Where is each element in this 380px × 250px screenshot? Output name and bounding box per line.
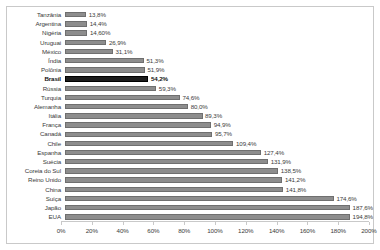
x-tick-label: 100% — [207, 222, 222, 234]
bar-track: 14,60% — [65, 29, 373, 37]
category-label: Rússia — [7, 85, 65, 93]
bar-track: 95,7% — [65, 130, 373, 138]
value-label: 131,9% — [268, 158, 291, 166]
bar-row: Canadá95,7% — [7, 130, 373, 138]
value-label: 59,3% — [156, 85, 176, 93]
bar-row: Rússia59,3% — [7, 85, 373, 93]
category-label: Itália — [7, 112, 65, 120]
bar — [65, 187, 283, 192]
bar — [65, 21, 87, 26]
category-label: Argentina — [7, 20, 65, 28]
x-tick-label: 160% — [300, 222, 315, 234]
bar-row: Espanha127,4% — [7, 149, 373, 157]
x-tick-label: 180% — [330, 222, 345, 234]
bar-track: 54,2% — [65, 75, 373, 83]
category-label: Suíça — [7, 195, 65, 203]
bar — [65, 58, 144, 63]
bar — [65, 95, 180, 100]
category-label: Nigéria — [7, 29, 65, 37]
value-label: 89,3% — [203, 112, 223, 120]
category-label: Índia — [7, 57, 65, 65]
bar-track: 89,3% — [65, 112, 373, 120]
x-tick-label: 80% — [178, 222, 190, 234]
category-label: Alemanha — [7, 103, 65, 111]
category-label: Turquia — [7, 94, 65, 102]
x-tick-label: 200% — [361, 222, 376, 234]
value-label: 141,2% — [282, 176, 305, 184]
bar — [65, 67, 145, 72]
value-label: 26,9% — [106, 39, 126, 47]
bar — [65, 168, 278, 173]
category-label: Espanha — [7, 149, 65, 157]
value-label: 80,0% — [188, 103, 208, 111]
value-label: 95,7% — [212, 130, 232, 138]
bar — [65, 141, 233, 146]
value-label: 14,60% — [87, 29, 110, 37]
value-label: 109,4% — [233, 140, 256, 148]
bar — [65, 104, 188, 109]
bar-chart: Tanzânia13,8%Argentina14,4%Nigéria14,60%… — [0, 0, 380, 250]
bar-row: Argentina14,4% — [7, 20, 373, 28]
value-label: 138,5% — [278, 167, 301, 175]
bar-row: Turquia74,6% — [7, 94, 373, 102]
bar-row: México31,1% — [7, 48, 373, 56]
x-tick-label: 0% — [57, 222, 66, 234]
bar-track: 59,3% — [65, 85, 373, 93]
bar — [65, 177, 282, 182]
category-label: Suécia — [7, 158, 65, 166]
plot-area: Tanzânia13,8%Argentina14,4%Nigéria14,60%… — [6, 6, 374, 244]
bar-row: Índia51,3% — [7, 57, 373, 65]
bar-row: Uruguai26,9% — [7, 39, 373, 47]
bar-track: 194,8% — [65, 213, 373, 221]
x-axis: 0%20%40%60%80%100%120%140%160%180%200% — [7, 221, 373, 243]
bar-track: 141,8% — [65, 186, 373, 194]
x-tick-label: 60% — [147, 222, 159, 234]
bar-track: 174,6% — [65, 195, 373, 203]
value-label: 31,1% — [113, 48, 133, 56]
bar — [65, 122, 211, 127]
bar — [65, 12, 86, 17]
bar — [65, 40, 106, 45]
bar-row: China141,8% — [7, 186, 373, 194]
x-tick-label: 140% — [269, 222, 284, 234]
bar-track: 26,9% — [65, 39, 373, 47]
category-label: China — [7, 186, 65, 194]
category-label: Tanzânia — [7, 11, 65, 19]
bar-track: 51,9% — [65, 66, 373, 74]
x-tick-label: 120% — [238, 222, 253, 234]
bar-row: Reino Unido141,2% — [7, 176, 373, 184]
bar-row: Nigéria14,60% — [7, 29, 373, 37]
bar-track: 74,6% — [65, 94, 373, 102]
value-label: 14,4% — [87, 20, 107, 28]
bar-track: 138,5% — [65, 167, 373, 175]
category-label: Brasil — [7, 75, 65, 83]
bar-rows: Tanzânia13,8%Argentina14,4%Nigéria14,60%… — [7, 11, 373, 221]
value-label: 51,3% — [144, 57, 164, 65]
value-label: 174,6% — [334, 195, 357, 203]
bar-row: Alemanha80,0% — [7, 103, 373, 111]
bar — [65, 150, 261, 155]
bar-track: 51,3% — [65, 57, 373, 65]
value-label: 187,6% — [350, 204, 373, 212]
category-label: França — [7, 121, 65, 129]
value-label: 51,9% — [145, 66, 165, 74]
bar-track: 131,9% — [65, 158, 373, 166]
bar-row: Japão187,6% — [7, 204, 373, 212]
x-tick-label: 40% — [117, 222, 129, 234]
bar-row: Brasil54,2% — [7, 75, 373, 83]
category-label: Polônia — [7, 66, 65, 74]
bar — [65, 159, 268, 164]
bar-track: 13,8% — [65, 11, 373, 19]
value-label: 194,8% — [350, 213, 373, 221]
category-label: Chile — [7, 140, 65, 148]
category-label: Coreia do Sul — [7, 167, 65, 175]
bar-row: Coreia do Sul138,5% — [7, 167, 373, 175]
value-label: 141,8% — [283, 186, 306, 194]
bar-row: Tanzânia13,8% — [7, 11, 373, 19]
category-label: Canadá — [7, 130, 65, 138]
bar-row: Chile109,4% — [7, 140, 373, 148]
bar-track: 187,6% — [65, 204, 373, 212]
bar-row: França94,9% — [7, 121, 373, 129]
value-label: 127,4% — [261, 149, 284, 157]
category-label: EUA — [7, 213, 65, 221]
